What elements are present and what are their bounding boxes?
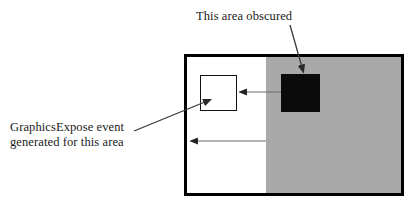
graphics-expose-area-square [200, 75, 237, 111]
obscured-area-label: This area obscured [196, 9, 292, 24]
graphics-expose-label: GraphicsExpose eventgenerated for this a… [10, 120, 124, 150]
graphics-expose-label-line2: generated for this area [10, 135, 124, 149]
graphics-expose-label-line1: GraphicsExpose event [10, 120, 124, 134]
diagram-canvas: This area obscured GraphicsExpose eventg… [0, 0, 415, 209]
obscured-area-square [281, 74, 320, 112]
